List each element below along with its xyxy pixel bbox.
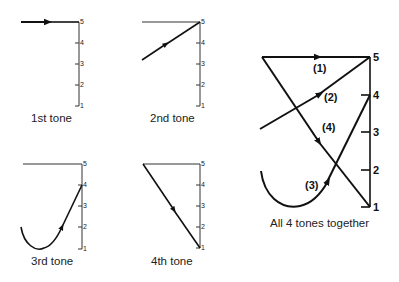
svg-text:1: 1 <box>373 201 379 213</box>
svg-text:5: 5 <box>373 51 379 63</box>
panel-2nd-tone: 5 4 3 2 1 <box>142 18 205 109</box>
svg-text:1: 1 <box>83 245 87 252</box>
svg-text:5: 5 <box>201 160 205 167</box>
label-tone-2: (2) <box>324 91 338 103</box>
label-tone-4: (4) <box>322 121 336 133</box>
svg-text:2: 2 <box>201 81 205 88</box>
svg-text:1: 1 <box>80 102 84 109</box>
caption-all-tones: All 4 tones together <box>270 217 369 229</box>
svg-text:3: 3 <box>201 60 205 67</box>
caption-3rd-tone: 3rd tone <box>31 255 73 267</box>
svg-text:3: 3 <box>83 202 87 209</box>
svg-text:2: 2 <box>80 81 84 88</box>
svg-text:3: 3 <box>373 126 379 138</box>
svg-text:2: 2 <box>201 223 205 230</box>
svg-text:3: 3 <box>201 202 205 209</box>
svg-text:5: 5 <box>201 18 205 25</box>
svg-text:4: 4 <box>201 39 205 46</box>
panel-1st-tone: 5 4 3 2 1 <box>21 18 84 109</box>
tone-diagram: 5 4 3 2 1 5 4 3 2 1 5 4 3 2 1 <box>0 0 399 282</box>
caption-1st-tone: 1st tone <box>31 112 72 124</box>
svg-text:5: 5 <box>80 18 84 25</box>
svg-text:2: 2 <box>83 223 87 230</box>
caption-4th-tone: 4th tone <box>151 255 193 267</box>
panel-3rd-tone: 5 4 3 2 1 <box>21 160 87 252</box>
svg-text:4: 4 <box>373 89 380 101</box>
svg-text:4: 4 <box>83 181 87 188</box>
svg-text:5: 5 <box>83 160 87 167</box>
tone-4-contour <box>143 164 174 210</box>
svg-text:4: 4 <box>201 181 205 188</box>
label-tone-3: (3) <box>305 179 319 191</box>
panel-all-tones: 5 4 3 2 1 (1) (2) (3) (4) <box>260 51 380 213</box>
svg-text:1: 1 <box>201 102 205 109</box>
svg-text:1: 1 <box>201 244 205 251</box>
svg-text:3: 3 <box>80 60 84 67</box>
svg-text:4: 4 <box>80 39 84 46</box>
label-tone-1: (1) <box>313 62 327 74</box>
caption-2nd-tone: 2nd tone <box>150 112 195 124</box>
tone-2-contour <box>142 44 166 60</box>
svg-text:2: 2 <box>373 164 379 176</box>
panel-4th-tone: 5 4 3 2 1 <box>143 160 205 251</box>
tone-3-contour <box>21 227 62 249</box>
